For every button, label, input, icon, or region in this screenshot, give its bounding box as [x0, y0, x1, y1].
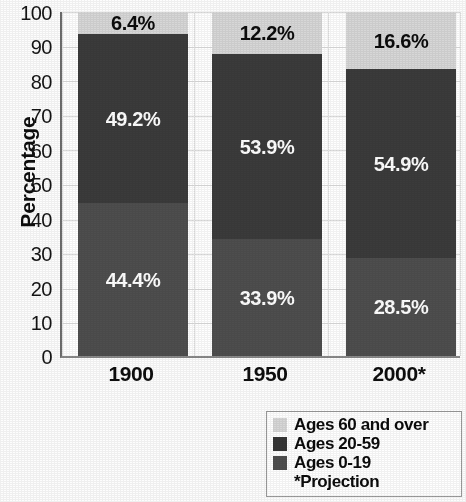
- plot-area: 44.4% 49.2% 6.4% 33.9% 53.9% 12.2%: [60, 12, 460, 358]
- x-tick-1950: 1950: [190, 362, 340, 386]
- bar-1950[interactable]: 33.9% 53.9% 12.2%: [212, 12, 322, 356]
- x-tick-1900: 1900: [56, 362, 206, 386]
- bar-1900-segment-ages-0-19: 44.4%: [78, 203, 188, 356]
- legend-item-ages-20-59: Ages 20-59: [273, 434, 461, 453]
- bar-1900[interactable]: 44.4% 49.2% 6.4%: [78, 12, 188, 356]
- bar-2000-segment-ages-0-19: 28.5%: [346, 258, 456, 356]
- legend-swatch-icon-ages-0-19: [273, 456, 287, 470]
- bar-2000-label-ages-20-59: 54.9%: [346, 152, 456, 175]
- bar-2000-segment-ages-20-59: 54.9%: [346, 69, 456, 258]
- legend-label-ages-20-59: Ages 20-59: [294, 434, 380, 453]
- bar-1950-segment-ages-60-over: 12.2%: [212, 12, 322, 54]
- y-tick-0: 0: [0, 346, 52, 369]
- bar-1900-label-ages-60-over: 6.4%: [78, 12, 188, 35]
- legend-label-ages-0-19: Ages 0-19: [294, 453, 371, 472]
- y-axis-tick-labels: 100 90 80 70 60 50 40 30 20 10 0: [0, 0, 56, 502]
- legend-item-ages-60-over: Ages 60 and over: [273, 415, 461, 434]
- bar-2000-label-ages-60-over: 16.6%: [346, 29, 456, 52]
- bar-1900-segment-ages-60-over: 6.4%: [78, 12, 188, 34]
- y-tick-80: 80: [0, 71, 52, 94]
- chart-figure: Percentage 100 90 80 70 60 50 40 30 20 1…: [0, 0, 466, 502]
- y-tick-50: 50: [0, 174, 52, 197]
- bar-2000-segment-ages-60-over: 16.6%: [346, 12, 456, 69]
- legend-label-ages-60-over: Ages 60 and over: [294, 415, 428, 434]
- bar-1950-segment-ages-0-19: 33.9%: [212, 239, 322, 356]
- legend-swatch-icon-ages-20-59: [273, 437, 287, 451]
- y-tick-30: 30: [0, 243, 52, 266]
- legend-projection-note: *Projection: [294, 472, 461, 492]
- y-tick-10: 10: [0, 312, 52, 335]
- legend-swatch-icon-ages-60-over: [273, 418, 287, 432]
- y-tick-90: 90: [0, 36, 52, 59]
- y-tick-100: 100: [0, 2, 52, 25]
- bar-2000-label-ages-0-19: 28.5%: [346, 295, 456, 318]
- y-tick-20: 20: [0, 278, 52, 301]
- bar-1900-label-ages-0-19: 44.4%: [78, 268, 188, 291]
- bar-1950-label-ages-60-over: 12.2%: [212, 21, 322, 44]
- legend: Ages 60 and over Ages 20-59 Ages 0-19 *P…: [266, 411, 462, 497]
- bar-2000[interactable]: 28.5% 54.9% 16.6%: [346, 12, 456, 356]
- bar-1950-segment-ages-20-59: 53.9%: [212, 54, 322, 239]
- y-tick-70: 70: [0, 105, 52, 128]
- y-tick-40: 40: [0, 209, 52, 232]
- bar-1950-label-ages-20-59: 53.9%: [212, 135, 322, 158]
- x-tick-2000: 2000*: [324, 362, 466, 386]
- bar-1900-label-ages-20-59: 49.2%: [78, 107, 188, 130]
- bar-1950-label-ages-0-19: 33.9%: [212, 286, 322, 309]
- bar-1900-segment-ages-20-59: 49.2%: [78, 34, 188, 203]
- legend-item-ages-0-19: Ages 0-19: [273, 453, 461, 472]
- y-tick-60: 60: [0, 140, 52, 163]
